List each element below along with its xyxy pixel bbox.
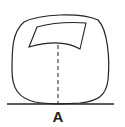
point-label-a: A <box>50 109 66 125</box>
outer-outline <box>12 15 109 104</box>
